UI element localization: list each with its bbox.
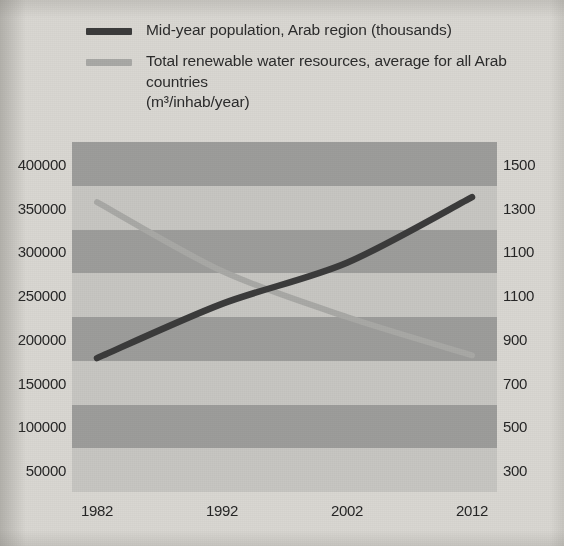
- y-left-tick-3: 250000: [18, 287, 66, 304]
- y-axis-left: 4000003500003000002500002000001500001000…: [8, 0, 66, 546]
- chart-figure: Mid-year population, Arab region (thousa…: [0, 0, 564, 546]
- legend-label-water-units: (m³/inhab/year): [146, 92, 546, 112]
- y-right-tick-3: 1100: [503, 287, 534, 304]
- y-left-tick-1: 350000: [18, 199, 66, 216]
- x-tick-3: 2012: [456, 502, 488, 519]
- series-lines: [72, 142, 497, 492]
- x-axis: 1982199220022012: [72, 500, 497, 530]
- line-population: [97, 197, 472, 358]
- legend-swatch-population: [86, 28, 132, 35]
- y-right-tick-2: 1100: [503, 243, 534, 260]
- y-left-tick-7: 50000: [26, 462, 66, 479]
- x-tick-0: 1982: [81, 502, 113, 519]
- y-left-tick-2: 300000: [18, 243, 66, 260]
- y-right-tick-6: 500: [503, 418, 527, 435]
- chart-legend: Mid-year population, Arab region (thousa…: [86, 20, 546, 124]
- y-right-tick-4: 900: [503, 330, 527, 347]
- legend-item-population: Mid-year population, Arab region (thousa…: [86, 20, 546, 40]
- y-left-tick-6: 100000: [18, 418, 66, 435]
- plot-area: [72, 142, 497, 492]
- y-right-tick-7: 300: [503, 462, 527, 479]
- legend-label-population: Mid-year population, Arab region (thousa…: [146, 20, 452, 40]
- legend-label-water: Total renewable water resources, average…: [146, 51, 546, 112]
- x-tick-2: 2002: [331, 502, 363, 519]
- legend-item-water: Total renewable water resources, average…: [86, 51, 546, 112]
- y-axis-right: 1500130011001100900700500300: [503, 0, 559, 546]
- y-right-tick-0: 1500: [503, 155, 535, 172]
- y-left-tick-0: 400000: [18, 155, 66, 172]
- x-tick-1: 1992: [206, 502, 238, 519]
- y-right-tick-5: 700: [503, 374, 527, 391]
- y-left-tick-4: 200000: [18, 330, 66, 347]
- legend-swatch-water: [86, 59, 132, 66]
- y-left-tick-5: 150000: [18, 374, 66, 391]
- y-right-tick-1: 1300: [503, 199, 535, 216]
